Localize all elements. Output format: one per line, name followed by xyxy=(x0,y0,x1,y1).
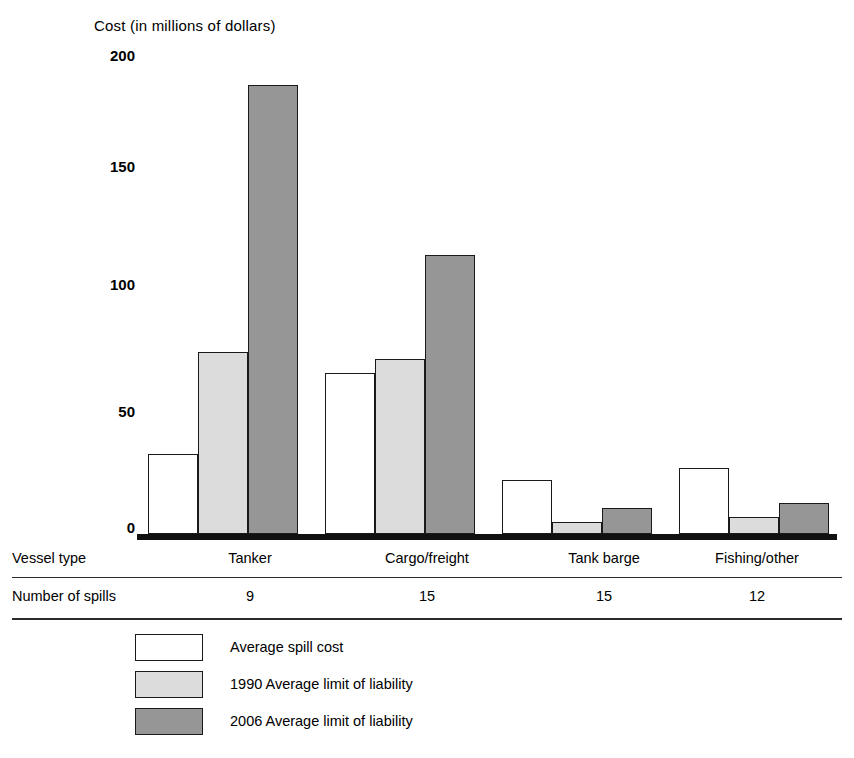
bar-tanker-series-1 xyxy=(198,352,248,534)
bar-tanker-series-0 xyxy=(148,454,198,534)
chart-legend: Average spill cost 1990 Average limit of… xyxy=(135,632,635,743)
cell-number-of-spills-0: 9 xyxy=(160,588,340,604)
y-axis-tick-50: 50 xyxy=(15,404,135,419)
bar-cargo-freight-series-0 xyxy=(325,373,375,534)
cell-vessel-type-1: Cargo/freight xyxy=(337,550,517,566)
y-axis-tick-100: 100 xyxy=(15,277,135,292)
y-axis-tick-200: 200 xyxy=(15,48,135,63)
legend-item-average-spill-cost: Average spill cost xyxy=(135,632,635,669)
table-row: Vessel type Tanker Cargo/freight Tank ba… xyxy=(12,544,842,574)
y-axis: 200 150 100 50 0 xyxy=(0,48,135,543)
bar-tank-barge-series-0 xyxy=(502,480,552,534)
legend-label-0: Average spill cost xyxy=(230,639,343,655)
bar-tanker-series-2 xyxy=(248,85,298,534)
bar-fishing-other-series-1 xyxy=(729,517,779,534)
category-table: Vessel type Tanker Cargo/freight Tank ba… xyxy=(12,544,842,604)
y-axis-tick-0: 0 xyxy=(15,520,135,535)
light-gray-swatch-icon xyxy=(135,671,203,698)
y-axis-tick-150: 150 xyxy=(15,159,135,174)
table-row: Number of spills 9 15 15 12 xyxy=(12,582,842,612)
white-swatch-icon xyxy=(135,634,203,661)
bar-cargo-freight-series-2 xyxy=(425,255,475,534)
row-label-number-of-spills: Number of spills xyxy=(12,588,116,604)
bars-layer xyxy=(137,0,837,540)
x-axis-baseline xyxy=(137,534,837,540)
bar-cargo-freight-series-1 xyxy=(375,359,425,534)
legend-item-1990-limit: 1990 Average limit of liability xyxy=(135,669,635,706)
bar-fishing-other-series-0 xyxy=(679,468,729,534)
bar-fishing-other-series-2 xyxy=(779,503,829,534)
row-label-vessel-type: Vessel type xyxy=(12,550,86,566)
bar-chart-figure: Cost (in millions of dollars) 200 150 10… xyxy=(0,0,854,758)
dark-gray-swatch-icon xyxy=(135,708,203,735)
cell-number-of-spills-1: 15 xyxy=(337,588,517,604)
table-rule-top xyxy=(12,577,842,578)
cell-number-of-spills-3: 12 xyxy=(667,588,847,604)
legend-label-2: 2006 Average limit of liability xyxy=(230,713,413,729)
cell-vessel-type-0: Tanker xyxy=(160,550,340,566)
legend-item-2006-limit: 2006 Average limit of liability xyxy=(135,706,635,743)
legend-label-1: 1990 Average limit of liability xyxy=(230,676,413,692)
bar-tank-barge-series-2 xyxy=(602,508,652,534)
table-rule-bottom xyxy=(12,618,842,620)
bar-tank-barge-series-1 xyxy=(552,522,602,534)
cell-vessel-type-3: Fishing/other xyxy=(667,550,847,566)
